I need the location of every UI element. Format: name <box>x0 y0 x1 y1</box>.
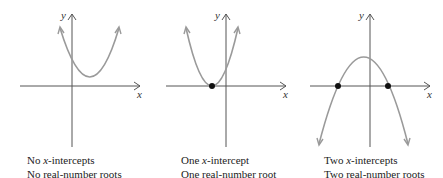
x-intercept-point-right <box>385 83 391 89</box>
parabola-curve <box>319 57 408 144</box>
panel-no-roots: y x <box>20 9 142 147</box>
caption-line-1: One x-intercept <box>181 153 276 167</box>
y-axis-label: y <box>358 9 364 21</box>
x-intercept-point <box>209 83 215 89</box>
caption-line-1: Two x-intercepts <box>324 153 425 167</box>
caption-one-root: One x-intercept One real-number root <box>181 153 276 178</box>
caption-line-2: No real-number roots <box>27 167 122 178</box>
caption-line-1: No x-intercepts <box>27 153 122 167</box>
parabola-curve <box>60 28 119 77</box>
parabola-curve <box>186 28 238 86</box>
x-axis-label: x <box>426 88 432 100</box>
y-axis-label: y <box>214 9 220 21</box>
caption-no-roots: No x-intercepts No real-number roots <box>27 153 122 178</box>
y-axis-label: y <box>60 9 66 21</box>
caption-line-2: Two real-number roots <box>324 167 425 178</box>
caption-line-2: One real-number root <box>181 167 276 178</box>
panel-two-roots: y x <box>310 9 432 147</box>
parabola-roots-figure: y x y x y x <box>0 0 443 178</box>
x-axis-label: x <box>136 88 142 100</box>
caption-two-roots: Two x-intercepts Two real-number roots <box>324 153 425 178</box>
panel-one-root: y x <box>166 9 288 147</box>
x-axis-label: x <box>282 88 288 100</box>
x-intercept-point-left <box>335 83 341 89</box>
